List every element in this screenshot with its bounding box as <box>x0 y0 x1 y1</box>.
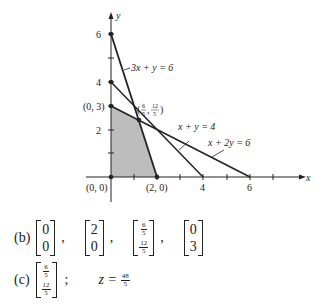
line-label-x-plus-y: x + y = 4 <box>177 121 215 132</box>
point-label-2-0: (2, 0) <box>146 182 168 194</box>
vector-0-3: 0 3 <box>184 220 203 256</box>
x-axis-label: x <box>305 172 311 183</box>
answer-c-label: (c) <box>14 272 30 288</box>
tick-label-x6: 6 <box>247 182 252 193</box>
vertex-dot <box>109 104 114 109</box>
y-axis-label: y <box>115 10 121 21</box>
svg-text:): ) <box>160 104 163 116</box>
linear-program-graph: y x 6 4 2 4 6 (0, 0) (2, 0) (0, 3) 3x + … <box>0 0 319 215</box>
leader-line <box>212 150 224 157</box>
vector-0-0: 0 0 <box>36 220 55 256</box>
svg-text:5: 5 <box>142 111 145 117</box>
svg-text:5: 5 <box>153 111 156 117</box>
vertex-dot <box>137 118 142 123</box>
tick-label-x4: 4 <box>200 182 205 193</box>
answer-c: (c) 65 125 ; z = 485 <box>14 262 130 298</box>
vertex-dot <box>109 175 114 180</box>
point-label-intersection: ( 6 5 , 12 5 ) <box>137 103 163 117</box>
vector-intersection: 65 125 <box>133 220 154 256</box>
feasible-region <box>111 105 157 177</box>
answer-b-label: (b) <box>14 230 30 246</box>
tick-label-y6: 6 <box>96 29 101 40</box>
tick-label-y4: 4 <box>96 77 101 88</box>
leader-line <box>124 68 130 70</box>
objective-fraction: 485 <box>121 273 130 288</box>
optimal-vector: 65 125 <box>36 262 57 298</box>
vertex-dot <box>109 80 114 85</box>
point-label-origin: (0, 0) <box>86 182 108 194</box>
svg-text:(: ( <box>137 104 141 116</box>
point-label-0-3: (0, 3) <box>83 101 105 113</box>
y-axis-arrow-icon <box>109 12 114 19</box>
answer-b: (b) 0 0 , 2 0 , 65 125 , 0 3 <box>14 220 205 256</box>
svg-text:6: 6 <box>142 103 145 109</box>
x-axis-arrow-icon <box>299 175 306 180</box>
svg-text:,: , <box>147 104 150 115</box>
vertex-dot <box>155 175 160 180</box>
tick-label-y2: 2 <box>96 125 101 136</box>
vector-2-0: 2 0 <box>85 220 104 256</box>
line-label-3x-plus-y: 3x + y = 6 <box>130 62 173 73</box>
line-label-x-plus-2y: x + 2y = 6 <box>207 137 250 148</box>
vertex-dot <box>109 32 114 37</box>
svg-text:12: 12 <box>152 103 158 109</box>
objective-value: z = <box>98 272 116 288</box>
